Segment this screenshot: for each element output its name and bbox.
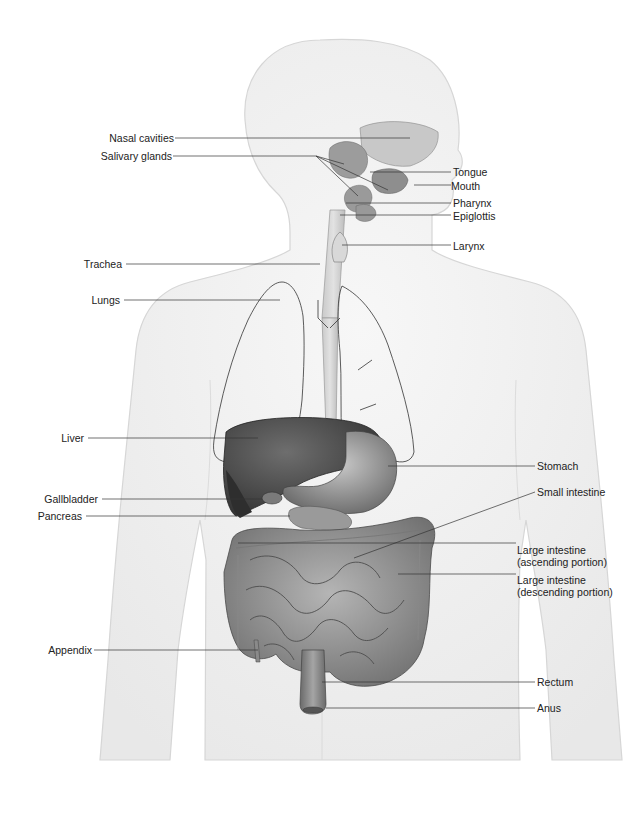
label-rectum: Rectum [537,676,573,688]
label-salivary-glands: Salivary glands [101,150,172,162]
label-nasal-cavities: Nasal cavities [109,132,174,144]
label-mouth: Mouth [451,180,480,192]
label-large-intestine-descending-line2: (descending portion) [517,586,613,598]
label-stomach: Stomach [537,460,578,472]
label-pharynx: Pharynx [453,197,492,209]
label-larynx: Larynx [453,240,485,252]
label-large-intestine-ascending-line2: (ascending portion) [517,556,607,568]
label-large-intestine-ascending: Large intestine (ascending portion) [517,544,607,568]
label-gallbladder: Gallbladder [44,493,98,505]
label-pancreas: Pancreas [38,510,82,522]
anus-shape [303,707,323,713]
label-epiglottis: Epiglottis [453,210,496,222]
label-trachea: Trachea [84,258,122,270]
label-liver: Liver [61,432,84,444]
label-anus: Anus [537,702,561,714]
label-tongue: Tongue [453,166,487,178]
label-lungs: Lungs [91,294,120,306]
label-large-intestine-descending: Large intestine (descending portion) [517,574,613,598]
label-appendix: Appendix [48,644,92,656]
label-large-intestine-descending-line1: Large intestine [517,574,613,586]
gallbladder-shape [262,492,282,504]
label-large-intestine-ascending-line1: Large intestine [517,544,607,556]
label-small-intestine: Small intestine [537,486,605,498]
